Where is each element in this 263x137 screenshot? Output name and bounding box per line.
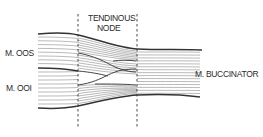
oos-fiber (38, 64, 78, 66)
oos-fiber (38, 60, 78, 62)
oos-ooi-divider (38, 68, 78, 71)
tendinous-node-label-line2: NODE (97, 23, 121, 33)
tendinous-node-label-line1: TENDINOUS (88, 13, 136, 23)
ooi-upper-fiber (78, 71, 108, 76)
m-oos-label: M. OOS (5, 48, 35, 58)
ooi-fiber (38, 84, 78, 85)
oos-fiber (38, 48, 78, 50)
ooi-fiber (38, 76, 78, 77)
m-buccinator-label: M. BUCCINATOR (195, 69, 258, 79)
lower-boundary-edge (38, 95, 200, 109)
buccinator-inner-fiber (113, 60, 136, 61)
ooi-fiber (38, 92, 78, 93)
oos-fiber (38, 52, 78, 54)
m-ooi-label: M. OOI (6, 83, 32, 93)
oos-fiber (38, 41, 78, 43)
muscle-diagram: TENDINOUS NODE M. OOS M. OOI M. BUCCINAT… (0, 0, 263, 137)
ooi-fiber (38, 72, 78, 73)
oos-fiber (38, 37, 78, 39)
ooi-fiber (38, 80, 78, 81)
ooi-fiber (38, 100, 78, 101)
ooi-fiber (38, 88, 78, 89)
oos-fiber (38, 45, 78, 47)
oos-fiber (38, 56, 78, 58)
ooi-fiber (38, 104, 78, 105)
ooi-fiber (38, 96, 78, 97)
